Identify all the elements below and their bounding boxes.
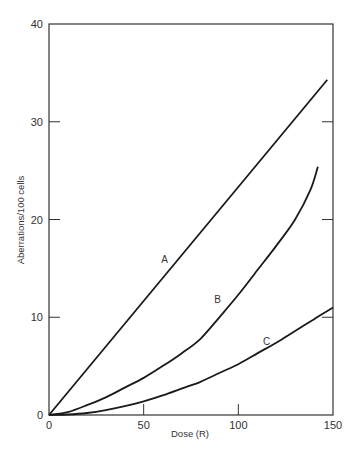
y-tick-label: 20: [31, 214, 43, 226]
axis-ticks: [49, 122, 333, 415]
y-tick-label: 10: [31, 311, 43, 323]
x-tick-label: 50: [138, 419, 150, 431]
dose-response-chart: 010203040050100150 ABC Dose (R) Aberrati…: [0, 0, 358, 458]
x-tick-label: 150: [324, 419, 342, 431]
y-tick-label: 30: [31, 116, 43, 128]
curves: [49, 80, 333, 415]
y-tick-label: 40: [31, 18, 43, 30]
curve-labels: ABC: [161, 254, 270, 346]
x-axis-title: Dose (R): [171, 428, 209, 439]
curve-label-a: A: [161, 254, 168, 265]
y-tick-label: 0: [37, 409, 43, 421]
plot-frame: [49, 24, 333, 415]
axis-tick-labels: 010203040050100150: [31, 18, 342, 431]
curve-c: [49, 308, 333, 416]
y-axis-title: Aberrations/100 cells: [15, 175, 26, 264]
curve-b: [49, 167, 318, 415]
curve-a: [49, 80, 327, 415]
x-tick-label: 0: [46, 419, 52, 431]
x-tick-label: 100: [229, 419, 247, 431]
curve-label-b: B: [214, 294, 221, 305]
curve-label-c: C: [263, 336, 270, 347]
